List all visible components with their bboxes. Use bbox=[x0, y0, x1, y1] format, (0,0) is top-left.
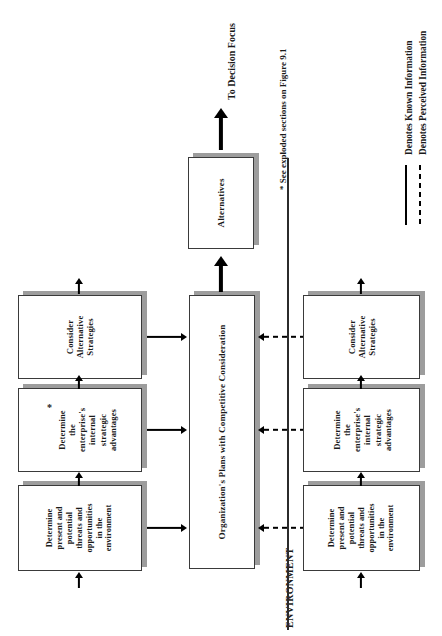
decision-focus-label: To Decision Focus bbox=[226, 23, 237, 100]
arrow-perceived-threats-to-internal bbox=[355, 472, 367, 486]
known-internal-label: Determinetheenterprise'sinternalstrategi… bbox=[57, 408, 118, 452]
perceived-internal-box[interactable]: Determinetheenterprise'sinternalstrategi… bbox=[303, 388, 420, 472]
known-threats-box[interactable]: Determinepresent andpotentialthreats and… bbox=[18, 485, 142, 571]
known-strategies-box[interactable]: ConsiderAlternativeStrategies bbox=[18, 295, 142, 379]
arrow-perceived-strategies-to-plans bbox=[258, 331, 303, 343]
plans-box[interactable]: Organization's Plans with Competitive Co… bbox=[189, 295, 255, 569]
known-internal-box[interactable]: * Determinetheenterprise'sinternalstrate… bbox=[18, 388, 142, 472]
known-strategies-label: ConsiderAlternativeStrategies bbox=[65, 316, 95, 359]
alternatives-box-label: Alternatives bbox=[216, 178, 227, 227]
legend-dashed-label: Denotes Perceived Information bbox=[418, 31, 428, 155]
arrow-perceived-internal-to-plans bbox=[258, 424, 303, 436]
perceived-threats-box[interactable]: Determinepresent andpotentialthreats and… bbox=[303, 485, 420, 571]
perceived-internal-label: Determinetheenterprise'sinternalstrategi… bbox=[331, 408, 392, 452]
arrow-known-strategies-to-plans bbox=[147, 331, 187, 343]
environment-divider-line bbox=[287, 158, 289, 630]
perceived-threats-label: Determinepresent andpotentialthreats and… bbox=[327, 503, 396, 552]
arrow-known-internal-to-strategies bbox=[73, 375, 85, 389]
arrow-perceived-threats-to-plans bbox=[258, 522, 303, 534]
known-internal-star-marker: * bbox=[47, 403, 52, 413]
diagram-canvas: Alternatives To Decision Focus Organizat… bbox=[0, 0, 442, 636]
perceived-strategies-label: ConsiderAlternativeStrategies bbox=[346, 316, 376, 359]
environment-label: ENVIRONMENT bbox=[284, 547, 295, 628]
known-threats-label: Determinepresent andpotentialthreats and… bbox=[45, 503, 114, 552]
arrow-perceived-strategies-top-out bbox=[355, 278, 367, 294]
plans-box-label: Organization's Plans with Competitive Co… bbox=[217, 325, 228, 540]
arrow-known-threats-bottom-in bbox=[73, 572, 85, 588]
legend-solid-line bbox=[405, 165, 407, 225]
arrow-perceived-threats-bottom-in bbox=[355, 572, 367, 588]
arrow-plans-to-alternatives bbox=[214, 256, 228, 292]
arrow-perceived-internal-to-strategies bbox=[355, 375, 367, 389]
arrow-known-threats-to-internal bbox=[73, 472, 85, 486]
arrow-known-strategies-top-out bbox=[73, 278, 85, 294]
legend-solid-label: Denotes Known Information bbox=[404, 40, 414, 155]
legend-dashed-line bbox=[419, 165, 421, 225]
arrow-known-threats-to-plans bbox=[147, 522, 187, 534]
alternatives-box[interactable]: Alternatives bbox=[188, 157, 254, 249]
arrow-alternatives-to-decision bbox=[214, 108, 228, 150]
arrow-known-internal-to-plans bbox=[147, 424, 187, 436]
perceived-strategies-box[interactable]: ConsiderAlternativeStrategies bbox=[303, 295, 420, 379]
